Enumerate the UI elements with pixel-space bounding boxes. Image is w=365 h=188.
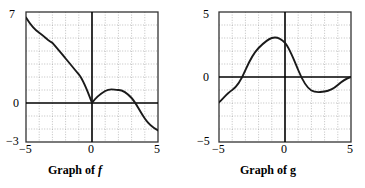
plot-g-ylabel-zero: 0	[203, 71, 209, 83]
graph-panel-f: 7 0 −3 −5 0 5 Graph of f	[0, 0, 182, 188]
plot-f-caption: Graph of f	[48, 163, 102, 178]
plot-g-ylabel-bottom: −5	[197, 135, 210, 147]
plot-f-xlabel-zero: 0	[88, 143, 94, 155]
plot-f-ylabel-top: 7	[9, 8, 15, 20]
graph-panel-g: 5 0 −5 −5 0 5 Graph of g	[183, 0, 365, 188]
plot-g-xlabel-zero: 0	[281, 143, 287, 155]
two-graph-figure: 7 0 −3 −5 0 5 Graph of f	[0, 0, 365, 188]
plot-f-ylabel-zero: 0	[13, 97, 19, 109]
plot-g-xlabel-right: 5	[347, 143, 353, 155]
plot-f-xlabel-right: 5	[154, 143, 160, 155]
plot-g-xlabel-left: −5	[212, 143, 225, 155]
plot-g-ylabel-top: 5	[203, 8, 209, 20]
plot-g-caption-symbol: g	[290, 163, 296, 177]
plot-g-svg	[183, 0, 365, 188]
plot-f-ylabel-bottom: −3	[6, 135, 19, 147]
plot-f-xlabel-left: −5	[19, 143, 32, 155]
plot-g-caption: Graph of g	[240, 163, 296, 178]
plot-g-caption-prefix: Graph of	[240, 163, 290, 177]
plot-f-caption-symbol: f	[98, 163, 102, 177]
plot-f-svg	[0, 0, 182, 188]
plot-f-caption-prefix: Graph of	[48, 163, 98, 177]
